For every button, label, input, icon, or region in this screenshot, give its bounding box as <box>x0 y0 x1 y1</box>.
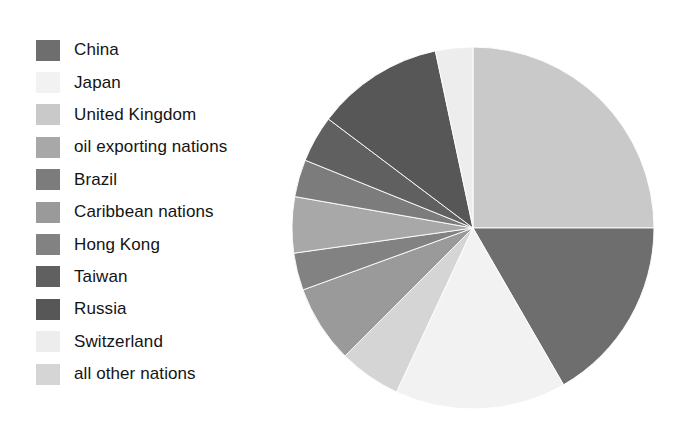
legend-swatch-caribbean-nations <box>36 202 60 223</box>
legend-item-switzerland[interactable]: Switzerland <box>36 326 266 358</box>
legend-item-oil-exporting-nations[interactable]: oil exporting nations <box>36 131 266 163</box>
legend-item-china[interactable]: China <box>36 34 266 66</box>
legend-label-all-other-nations: all other nations <box>74 364 196 384</box>
legend-item-caribbean-nations[interactable]: Caribbean nations <box>36 196 266 228</box>
pie-slice-group <box>292 47 654 409</box>
legend-swatch-brazil <box>36 169 60 190</box>
legend-label-brazil: Brazil <box>74 170 117 190</box>
legend-swatch-taiwan <box>36 266 60 287</box>
legend-item-russia[interactable]: Russia <box>36 293 266 325</box>
legend-item-united-kingdom[interactable]: United Kingdom <box>36 99 266 131</box>
legend-label-taiwan: Taiwan <box>74 267 128 287</box>
legend-item-brazil[interactable]: Brazil <box>36 164 266 196</box>
legend-swatch-russia <box>36 299 60 320</box>
legend-label-japan: Japan <box>74 73 121 93</box>
pie-chart-figure: China Japan United Kingdom oil exporting… <box>0 0 688 440</box>
legend-swatch-japan <box>36 72 60 93</box>
pie-slice-united-kingdom[interactable] <box>473 47 654 228</box>
chart-legend: China Japan United Kingdom oil exporting… <box>36 34 266 390</box>
legend-swatch-united-kingdom <box>36 104 60 125</box>
legend-swatch-switzerland <box>36 331 60 352</box>
pie-chart-svg <box>291 47 655 411</box>
legend-label-oil-exporting-nations: oil exporting nations <box>74 137 227 157</box>
legend-swatch-china <box>36 40 60 61</box>
legend-swatch-all-other-nations <box>36 364 60 385</box>
legend-label-russia: Russia <box>74 299 127 319</box>
pie-chart <box>291 47 655 411</box>
legend-label-hong-kong: Hong Kong <box>74 235 160 255</box>
legend-swatch-hong-kong <box>36 234 60 255</box>
legend-item-japan[interactable]: Japan <box>36 66 266 98</box>
legend-label-united-kingdom: United Kingdom <box>74 105 196 125</box>
legend-item-taiwan[interactable]: Taiwan <box>36 261 266 293</box>
legend-label-caribbean-nations: Caribbean nations <box>74 202 214 222</box>
legend-item-all-other-nations[interactable]: all other nations <box>36 358 266 390</box>
legend-item-hong-kong[interactable]: Hong Kong <box>36 228 266 260</box>
legend-label-switzerland: Switzerland <box>74 332 163 352</box>
legend-swatch-oil-exporting-nations <box>36 137 60 158</box>
legend-label-china: China <box>74 40 119 60</box>
